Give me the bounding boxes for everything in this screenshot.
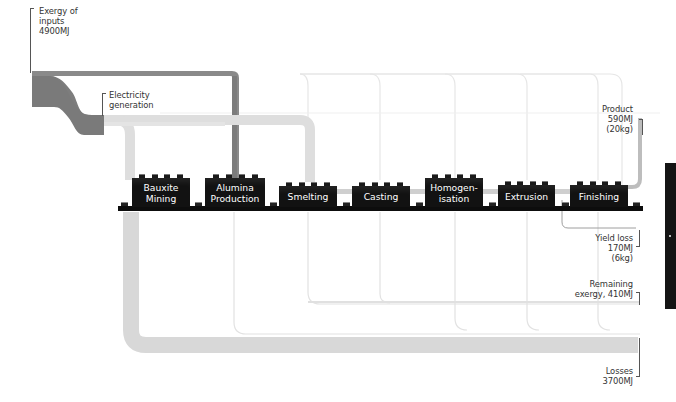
yield-loss-label: Yield loss 170MJ (6kg) (595, 233, 633, 263)
yield-loss-mass: (6kg) (595, 253, 633, 263)
conveyor-foot (489, 202, 496, 206)
remaining-bracket (636, 292, 640, 305)
stage-finishing: Finishing (570, 185, 628, 207)
yield-loss-value: 170MJ (595, 243, 633, 253)
stage-casting: Casting (352, 186, 410, 207)
stage-homogenisation: Homogen-isation (425, 178, 483, 207)
conveyor-foot (343, 202, 350, 206)
thin-flows-bottom (234, 212, 640, 334)
exergy-inputs-value: 4900MJ (39, 26, 78, 36)
product-value: 590MJ (602, 114, 633, 124)
electricity-bracket (102, 93, 106, 116)
conveyor-foot (562, 202, 569, 206)
losses-flow (131, 212, 638, 345)
conveyor-foot (195, 202, 202, 206)
side-panel (665, 163, 676, 309)
remaining-exergy-label: Remaining exergy, 410MJ (575, 279, 633, 299)
product-label: Product 590MJ (20kg) (602, 104, 633, 134)
electricity-flow (104, 120, 310, 182)
conveyor-foot (633, 202, 640, 206)
thin-flows-top (300, 74, 622, 190)
electricity-generation-label: Electricity generation (109, 90, 154, 110)
exergy-bracket (30, 8, 34, 73)
remaining-exergy-value: exergy, 410MJ (575, 289, 633, 299)
conveyor-foot (270, 202, 277, 206)
product-mass: (20kg) (602, 124, 633, 134)
stage-alumina-production: AluminaProduction (205, 178, 265, 207)
conveyor-foot (121, 202, 128, 206)
losses-bracket (636, 338, 640, 377)
losses-label: Losses 3700MJ (603, 366, 633, 386)
exergy-inputs-label: Exergy of inputs 4900MJ (39, 6, 78, 36)
stage-bauxite-mining: BauxiteMining (132, 178, 190, 207)
panel-dot (669, 235, 671, 237)
yield-loss-bracket (636, 230, 640, 247)
stage-smelting: Smelting (279, 186, 337, 207)
stage-extrusion: Extrusion (498, 185, 555, 207)
product-bracket (639, 119, 643, 135)
losses-value: 3700MJ (603, 376, 633, 386)
conveyor-foot (416, 202, 423, 206)
